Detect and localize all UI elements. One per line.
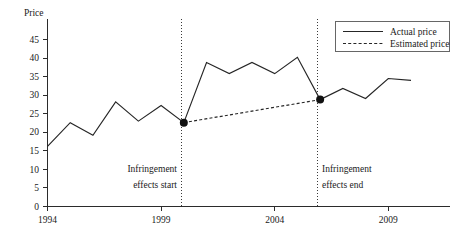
y-tick-label: 40 [30, 53, 40, 63]
y-tick-label: 30 [30, 90, 40, 100]
legend: Actual price Estimated price [336, 22, 450, 52]
x-tick-label: 2004 [265, 215, 284, 225]
annotation-line-1: Infringement [127, 164, 177, 174]
x-tick-label: 2009 [379, 215, 398, 225]
infringement-end-point [316, 96, 324, 104]
y-tick-label: 35 [30, 72, 40, 82]
actual-price-series [48, 57, 412, 146]
x-tick-label: 1999 [152, 215, 171, 225]
infringement-end-annotation: Infringement effects end [322, 164, 372, 190]
y-tick-label: 45 [30, 35, 40, 45]
y-tick-label: 20 [30, 127, 40, 137]
y-axis-label: Price [24, 8, 44, 18]
estimated-price-series [184, 100, 320, 123]
infringement-start-annotation: Infringement effects start [127, 164, 177, 190]
annotation-line-2: effects start [133, 180, 177, 190]
infringement-start-point [180, 119, 188, 127]
y-tick-label: 0 [34, 202, 39, 212]
y-tick-label: 25 [30, 109, 40, 119]
y-tick-label: 5 [34, 183, 39, 193]
legend-label-estimated: Estimated price [390, 39, 449, 49]
y-tick-label: 10 [30, 165, 40, 175]
x-tick-label: 1994 [38, 215, 57, 225]
x-tick-group: 1994 1999 2004 2009 [38, 207, 398, 226]
y-tick-label: 15 [30, 146, 40, 156]
y-tick-group: 0 5 10 15 20 25 30 35 40 45 [30, 35, 48, 212]
annotation-line-1: Infringement [322, 164, 372, 174]
price-line-chart: Price 0 5 10 15 20 25 30 35 40 45 [0, 0, 474, 240]
legend-label-actual: Actual price [390, 27, 437, 37]
annotation-line-2: effects end [322, 180, 363, 190]
chart-canvas: Price 0 5 10 15 20 25 30 35 40 45 [0, 0, 474, 240]
